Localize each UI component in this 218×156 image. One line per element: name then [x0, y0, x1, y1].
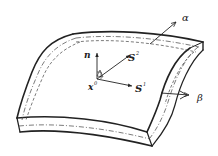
shell-outline — [17, 32, 203, 146]
angle-mark — [97, 70, 103, 77]
label-s2-sup: 2 — [135, 50, 139, 56]
label-x0: x — [87, 82, 94, 92]
label-alpha: α — [182, 12, 189, 23]
s1-vector — [97, 79, 132, 86]
label-x0-sup: 0 — [94, 80, 98, 86]
s2-vector — [97, 55, 130, 79]
label-s2: S — [128, 52, 135, 63]
shell-diagram: n S 2 S 1 x 0 α β — [0, 0, 218, 156]
label-beta: β — [196, 92, 203, 103]
label-s1-sup: 1 — [143, 81, 146, 87]
mid-surface-lines — [19, 36, 199, 139]
label-s1: S — [135, 83, 142, 94]
local-frame — [97, 53, 132, 86]
label-n: n — [84, 50, 91, 60]
